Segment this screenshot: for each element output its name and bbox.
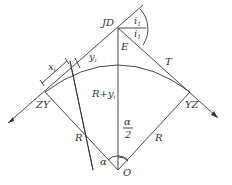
label-alpha-half-den: 2 bbox=[124, 129, 131, 140]
label-yz: YZ bbox=[185, 99, 200, 110]
label-t: T bbox=[165, 56, 173, 67]
label-alpha-half-num: α bbox=[124, 116, 131, 127]
label-jd: JD bbox=[100, 17, 114, 28]
label-o: O bbox=[123, 167, 131, 178]
label-r-right: R bbox=[154, 132, 163, 143]
label-alpha: α bbox=[100, 156, 107, 167]
deflection-angle-arc bbox=[140, 9, 148, 45]
label-e: E bbox=[120, 41, 129, 52]
label-i2: i1 bbox=[134, 28, 141, 40]
label-yi: yi bbox=[88, 51, 97, 63]
curve-geometry-diagram: JD E i1 i1 T ZY YZ R R R+yi xi yi α α 2 … bbox=[0, 0, 232, 185]
yi-marker bbox=[75, 58, 80, 68]
left-tangent-line bbox=[8, 5, 143, 123]
label-i1: i1 bbox=[134, 15, 141, 27]
label-r-left: R bbox=[74, 132, 83, 143]
right-tangent-line bbox=[118, 28, 218, 118]
label-zy: ZY bbox=[35, 99, 51, 110]
arrow-left-icon bbox=[8, 117, 14, 123]
radius-left bbox=[45, 92, 118, 170]
label-xi: xi bbox=[48, 61, 56, 73]
label-r-plus-yi: R+yi bbox=[91, 88, 116, 100]
circular-curve bbox=[45, 65, 190, 92]
